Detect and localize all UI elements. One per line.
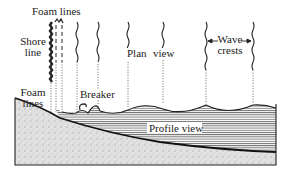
plan-label: Plan [126,48,148,59]
breaker-curl [80,104,87,110]
breaker-label: Breaker [79,89,116,100]
shore-line-label-line2: line [19,47,47,58]
foam-lines-label-top: Foam lines [32,6,81,17]
profile-view-label: Profile view [149,123,203,134]
wave-crests-label: Wave crests [216,34,244,56]
wave-crests-label-line2: crests [216,45,244,56]
foam-lines-bottom-line2: lines [18,98,48,109]
wave-diagram: Foam lines Shore line Plan view Wave cre… [0,0,290,174]
wave-crest-plan [252,22,254,70]
view-label: view [152,48,175,59]
wave-crest-plan [97,22,99,62]
wave-crest-plan [205,22,207,70]
foam-lines-label-bottom: Foam lines [18,87,48,109]
profile-view [15,98,276,165]
wave-crest-plan [76,22,78,62]
foam-line-plan [55,19,63,23]
shore-line-label: Shore line [19,36,47,58]
